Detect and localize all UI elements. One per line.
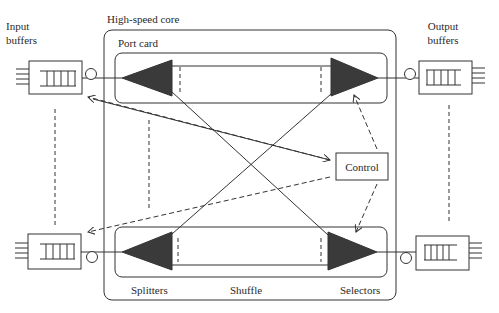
selector-triangle-top (331, 58, 378, 96)
shuffle-interconnect (172, 92, 331, 235)
splitter-triangle-bottom (122, 232, 172, 270)
selector-triangle-bottom (328, 232, 377, 270)
input-buffers-label-2: buffers (6, 34, 37, 46)
output-buffer-bottom (377, 236, 482, 270)
output-buffers: Output buffers (377, 20, 485, 270)
input-buffer-top (16, 61, 122, 94)
control-to-selector-bottom-arrow (356, 184, 377, 232)
selectors-label: Selectors (340, 284, 380, 296)
output-buffers-label-1: Output (428, 20, 459, 32)
port-card-label: Port card (118, 37, 159, 49)
port-card-bottom (115, 227, 387, 277)
splitters-label: Splitters (131, 284, 168, 296)
switch-architecture-diagram: High-speed core Port card Input buffers (0, 0, 499, 313)
control-signals (88, 95, 377, 232)
port-card-top: Port card (115, 37, 387, 103)
high-speed-core-label: High-speed core (107, 13, 180, 25)
control-to-input-bottom-arrow (88, 177, 330, 232)
output-buffer-top (378, 61, 485, 94)
input-top-to-control-arrow (93, 99, 330, 160)
input-buffers: Input buffers (6, 20, 122, 269)
input-buffer-bottom (15, 234, 122, 269)
shuffle-label: Shuffle (230, 284, 262, 296)
control-unit: Control (336, 153, 388, 180)
control-label: Control (345, 161, 379, 173)
output-buffers-label-2: buffers (428, 34, 459, 46)
input-buffers-label-1: Input (6, 20, 29, 32)
splitter-triangle-top (122, 60, 172, 96)
